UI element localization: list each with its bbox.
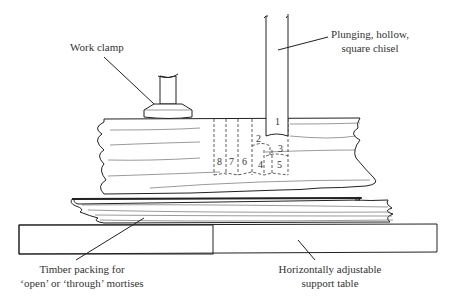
cut-number-4: 4: [258, 159, 263, 170]
workpiece: [97, 118, 375, 194]
cut-number-2: 2: [256, 133, 261, 144]
label-chisel-line2: square chisel: [341, 42, 398, 54]
cut-number-5: 5: [277, 159, 282, 170]
label-table-line1: Horizontally adjustable: [279, 263, 382, 275]
cut-number-8: 8: [217, 156, 222, 167]
mortise-diagram: 1 2 3 4 5 6 7 8 Work clamp Plunging, hol…: [0, 0, 451, 307]
cut-number-6: 6: [242, 156, 247, 167]
label-table-line2: support table: [301, 277, 358, 289]
label-packing-line2: ‘open’ or ‘through’ mortises: [20, 277, 143, 289]
label-work-clamp: Work clamp: [70, 41, 124, 53]
work-clamp-leader: [104, 57, 154, 104]
cut-number-7: 7: [229, 156, 234, 167]
cut-number-3: 3: [278, 143, 283, 154]
cut-number-1: 1: [275, 116, 280, 127]
label-packing-line1: Timber packing for: [39, 263, 124, 275]
table-leader: [298, 240, 315, 260]
support-table: [19, 224, 437, 254]
labels: Work clamp Plunging, hollow, square chis…: [20, 28, 409, 289]
diagram-svg: 1 2 3 4 5 6 7 8 Work clamp Plunging, hol…: [0, 0, 451, 307]
work-clamp: [144, 74, 192, 119]
timber-packing: [71, 197, 393, 223]
label-chisel-line1: Plunging, hollow,: [331, 28, 409, 40]
leader-lines: [76, 37, 328, 260]
